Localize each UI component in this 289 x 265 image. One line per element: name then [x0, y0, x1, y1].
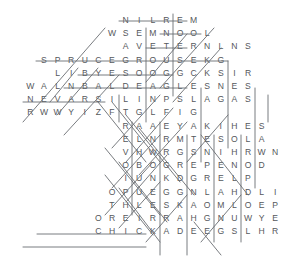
grid-letter[interactable]: K — [146, 225, 160, 238]
grid-letter[interactable]: P — [51, 54, 65, 67]
grid-letter[interactable]: G — [173, 146, 187, 159]
grid-letter[interactable]: W — [146, 146, 160, 159]
grid-letter[interactable]: L — [241, 225, 255, 238]
grid-letter[interactable]: A — [64, 93, 78, 106]
grid-letter[interactable]: U — [228, 212, 242, 225]
grid-letter[interactable]: A — [228, 93, 242, 106]
grid-letter[interactable]: G — [187, 106, 201, 119]
grid-letter[interactable]: M — [187, 14, 201, 27]
grid-letter[interactable]: G — [214, 93, 228, 106]
grid-letter[interactable]: N — [214, 80, 228, 93]
grid-letter[interactable]: G — [173, 67, 187, 80]
grid-letter[interactable]: D — [255, 159, 269, 172]
grid-letter[interactable]: R — [78, 93, 92, 106]
grid-letter[interactable]: U — [132, 172, 146, 185]
grid-letter[interactable]: N — [24, 93, 38, 106]
grid-letter[interactable]: E — [200, 133, 214, 146]
grid-letter[interactable]: C — [92, 225, 106, 238]
grid-letter[interactable]: E — [173, 14, 187, 27]
grid-letter[interactable]: G — [160, 159, 174, 172]
grid-letter[interactable]: S — [173, 54, 187, 67]
grid-letter[interactable]: S — [119, 27, 133, 40]
grid-letter[interactable]: R — [64, 54, 78, 67]
grid-letter[interactable]: Y — [173, 120, 187, 133]
grid-letter[interactable]: Y — [255, 212, 269, 225]
grid-letter[interactable]: K — [200, 120, 214, 133]
grid-letter[interactable]: R — [160, 212, 174, 225]
grid-letter[interactable]: E — [146, 40, 160, 53]
grid-letter[interactable]: R — [119, 120, 133, 133]
grid-letter[interactable]: L — [214, 40, 228, 53]
grid-letter[interactable]: H — [228, 186, 242, 199]
grid-letter[interactable]: E — [119, 212, 133, 225]
grid-letter[interactable]: A — [160, 225, 174, 238]
grid-letter[interactable]: S — [200, 80, 214, 93]
grid-letter[interactable]: N — [228, 159, 242, 172]
grid-letter[interactable]: A — [119, 40, 133, 53]
grid-letter[interactable]: Y — [92, 67, 106, 80]
grid-letter[interactable]: R — [146, 212, 160, 225]
grid-letter[interactable]: E — [146, 186, 160, 199]
grid-letter[interactable]: B — [78, 67, 92, 80]
grid-letter[interactable]: R — [268, 225, 282, 238]
grid-letter[interactable]: E — [187, 54, 201, 67]
grid-letter[interactable]: T — [187, 133, 201, 146]
grid-letter[interactable]: L — [146, 106, 160, 119]
grid-letter[interactable]: E — [146, 199, 160, 212]
grid-letter[interactable]: I — [78, 106, 92, 119]
grid-letter[interactable]: A — [214, 186, 228, 199]
grid-letter[interactable]: H — [228, 120, 242, 133]
grid-letter[interactable]: T — [160, 40, 174, 53]
grid-letter[interactable]: U — [160, 54, 174, 67]
grid-letter[interactable]: D — [119, 80, 133, 93]
grid-letter[interactable]: E — [268, 212, 282, 225]
grid-letter[interactable]: O — [241, 199, 255, 212]
grid-letter[interactable]: T — [119, 106, 133, 119]
grid-letter[interactable]: O — [241, 159, 255, 172]
grid-letter[interactable]: W — [241, 212, 255, 225]
grid-letter[interactable]: A — [173, 212, 187, 225]
grid-letter[interactable]: N — [146, 133, 160, 146]
grid-letter[interactable]: K — [160, 172, 174, 185]
grid-letter[interactable]: H — [132, 146, 146, 159]
grid-letter[interactable]: P — [241, 172, 255, 185]
grid-letter[interactable]: S — [119, 67, 133, 80]
grid-letter[interactable]: L — [200, 186, 214, 199]
grid-letter[interactable]: I — [214, 120, 228, 133]
grid-letter[interactable]: O — [105, 186, 119, 199]
grid-letter[interactable]: L — [132, 133, 146, 146]
grid-letter[interactable]: G — [160, 67, 174, 80]
grid-letter[interactable]: K — [173, 199, 187, 212]
grid-letter[interactable]: G — [132, 106, 146, 119]
grid-letter[interactable]: S — [255, 120, 269, 133]
grid-letter[interactable]: K — [200, 54, 214, 67]
grid-letter[interactable]: P — [268, 199, 282, 212]
grid-letter[interactable]: R — [160, 14, 174, 27]
grid-letter[interactable]: E — [105, 54, 119, 67]
grid-letter[interactable]: Z — [92, 106, 106, 119]
grid-letter[interactable]: E — [187, 225, 201, 238]
grid-letter[interactable]: R — [241, 146, 255, 159]
grid-letter[interactable]: W — [37, 106, 51, 119]
grid-letter[interactable]: R — [241, 67, 255, 80]
grid-letter[interactable]: G — [173, 186, 187, 199]
grid-letter[interactable]: W — [105, 27, 119, 40]
grid-letter[interactable]: L — [51, 80, 65, 93]
grid-letter[interactable]: B — [78, 80, 92, 93]
grid-letter[interactable]: D — [173, 172, 187, 185]
grid-letter[interactable]: U — [132, 186, 146, 199]
grid-letter[interactable]: A — [187, 120, 201, 133]
grid-letter[interactable]: N — [228, 40, 242, 53]
letter-grid[interactable]: NILREMWSEMNOOLAVETERNLNSSPRUCEGROUSEKGLI… — [0, 0, 289, 265]
grid-letter[interactable]: E — [214, 159, 228, 172]
grid-letter[interactable]: O — [173, 27, 187, 40]
grid-letter[interactable]: L — [255, 186, 269, 199]
grid-letter[interactable]: L — [241, 133, 255, 146]
grid-letter[interactable]: G — [119, 54, 133, 67]
grid-letter[interactable]: E — [187, 80, 201, 93]
grid-letter[interactable]: L — [173, 80, 187, 93]
grid-letter[interactable]: L — [51, 67, 65, 80]
grid-letter[interactable]: A — [187, 199, 201, 212]
grid-letter[interactable]: V — [132, 40, 146, 53]
grid-letter[interactable]: P — [160, 93, 174, 106]
